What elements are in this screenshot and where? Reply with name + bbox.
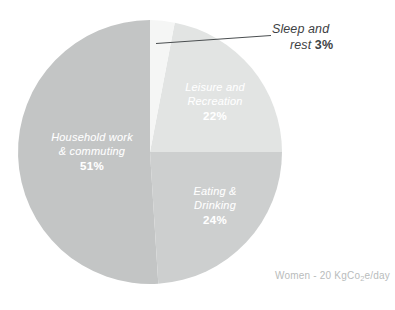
pie-callout-sleep-and-rest: Sleep and rest 3% (272, 21, 390, 53)
footnote-subscript: 2 (360, 274, 364, 283)
pie-label-household-line2: & commuting (59, 145, 125, 157)
chart-footnote: Women - 20 KgCo2e/day (258, 270, 390, 281)
pie-label-eating-and-drinking: Eating & Drinking 24% (163, 184, 267, 227)
pie-callout-label-rest: rest (290, 38, 311, 52)
footnote-suffix: e/day (365, 270, 390, 281)
pie-label-leisure-and-recreation: Leisure and Recreation 22% (163, 80, 267, 123)
pie-label-leisure-line2: Recreation (187, 95, 242, 107)
pie-label-household-percent: 51% (22, 158, 162, 173)
footnote-prefix: Women - 20 KgCo (275, 270, 360, 281)
pie-callout-line1: Sleep and (272, 22, 329, 36)
pie-callout-percent: 3% (315, 38, 333, 52)
pie-label-eating-percent: 24% (163, 212, 267, 227)
pie-callout-line2-wrapper: rest 3% (272, 37, 390, 53)
pie-label-eating-line2: Drinking (194, 199, 236, 211)
pie-label-eating-line1: Eating & (193, 185, 236, 197)
pie-label-leisure-line1: Leisure and (185, 81, 245, 93)
pie-label-leisure-percent: 22% (163, 108, 267, 123)
pie-label-household-work-and-commuting: Household work & commuting 51% (22, 130, 162, 173)
pie-label-household-line1: Household work (51, 131, 133, 143)
pie-chart-figure: Household work & commuting 51% Leisure a… (0, 0, 395, 310)
